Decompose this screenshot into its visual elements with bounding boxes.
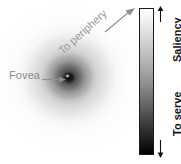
figure-canvas: Fovea To periphery Saliency mechanisms T… [0, 0, 181, 164]
fovea-label: Fovea [9, 69, 40, 82]
down-arrow-icon [156, 140, 165, 158]
colorbar-top-label: Saliency mechanisms [172, 0, 181, 62]
to-periphery-arrow-icon [104, 7, 136, 33]
up-arrow-icon [156, 6, 165, 22]
fovea-leader-arrow-icon [42, 76, 66, 83]
colorbar-bottom-label: To serve decoding [172, 87, 181, 136]
colorbar-bottom-label-line1: To serve [172, 87, 181, 136]
colorbar-group: Saliency mechanisms To serve decoding [136, 0, 181, 164]
saliency-decoding-colorbar [139, 8, 154, 155]
colorbar-top-label-line1: Saliency [172, 0, 181, 62]
